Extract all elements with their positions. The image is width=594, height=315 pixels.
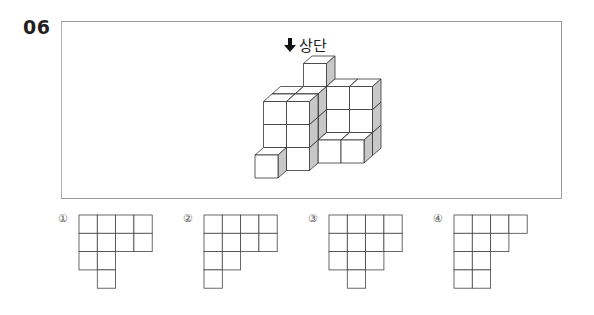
top-view-grid (453, 214, 528, 289)
top-view-grid (78, 214, 153, 289)
option-marker: ② (183, 212, 193, 225)
top-view-grid (328, 214, 403, 289)
option-marker: ③ (308, 212, 318, 225)
option-marker: ① (58, 212, 68, 225)
option-marker: ④ (433, 212, 443, 225)
top-view-grid (203, 214, 278, 289)
